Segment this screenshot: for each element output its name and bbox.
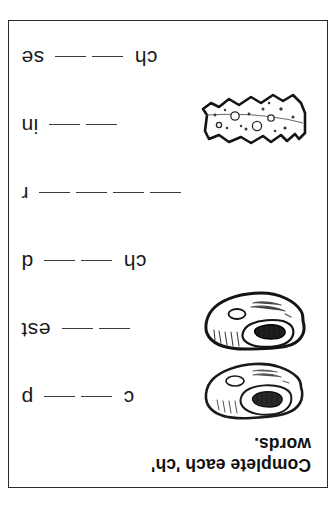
exercise-row: ch d <box>7 221 327 289</box>
blank-lines[interactable] <box>59 323 133 324</box>
word-blanks: in <box>21 103 128 137</box>
word-prefix: c <box>123 388 134 409</box>
blank-line[interactable] <box>40 192 71 193</box>
blank-line[interactable] <box>77 192 108 193</box>
pork-chop-illustration <box>195 353 315 431</box>
blank-line[interactable] <box>55 56 86 57</box>
word-suffix: se <box>21 48 44 69</box>
page-title-line-1: Complete each 'ch' <box>23 454 311 475</box>
blank-line[interactable] <box>44 260 75 261</box>
word-blanks: ch se <box>21 35 157 69</box>
page-border-frame: Complete each 'ch' words. <box>8 20 328 488</box>
blank-line[interactable] <box>92 56 123 57</box>
word-suffix: d <box>21 252 33 273</box>
treasure-chest-illustration <box>195 285 315 363</box>
blank-line[interactable] <box>62 328 93 329</box>
blank-line[interactable] <box>49 124 80 125</box>
word-prefix: ch <box>134 48 157 69</box>
page-title: Complete each 'ch' words. <box>23 434 311 475</box>
blank-lines[interactable] <box>41 391 115 392</box>
blank-line[interactable] <box>99 328 130 329</box>
blank-lines[interactable] <box>52 51 126 52</box>
exercise-row: c p <box>7 357 327 425</box>
word-blanks: r <box>21 171 193 205</box>
blank-line[interactable] <box>81 260 112 261</box>
worksheet-page: Complete each 'ch' words. <box>0 0 335 508</box>
exercise-rows: c p <box>7 17 327 425</box>
page-title-line-2: words. <box>23 434 311 455</box>
word-blanks: est <box>21 307 141 341</box>
blank-lines[interactable] <box>46 119 120 120</box>
blank-lines[interactable] <box>41 255 115 256</box>
blank-line[interactable] <box>114 192 145 193</box>
blank-line[interactable] <box>44 396 75 397</box>
word-prefix: ch <box>123 252 146 273</box>
word-suffix: in <box>21 116 38 137</box>
blank-line[interactable] <box>151 192 182 193</box>
cheese-wedge-illustration <box>195 81 315 159</box>
blank-lines[interactable] <box>37 187 185 188</box>
word-suffix: est <box>21 320 51 341</box>
word-blanks: ch d <box>21 239 146 273</box>
exercise-row: ch se <box>7 17 327 85</box>
exercise-row: in <box>7 85 327 153</box>
exercise-row: r <box>7 153 327 221</box>
exercise-row: est <box>7 289 327 357</box>
blank-line[interactable] <box>81 396 112 397</box>
word-suffix: r <box>21 184 29 205</box>
blank-line[interactable] <box>86 124 117 125</box>
word-blanks: c p <box>21 375 134 409</box>
word-suffix: p <box>21 388 33 409</box>
